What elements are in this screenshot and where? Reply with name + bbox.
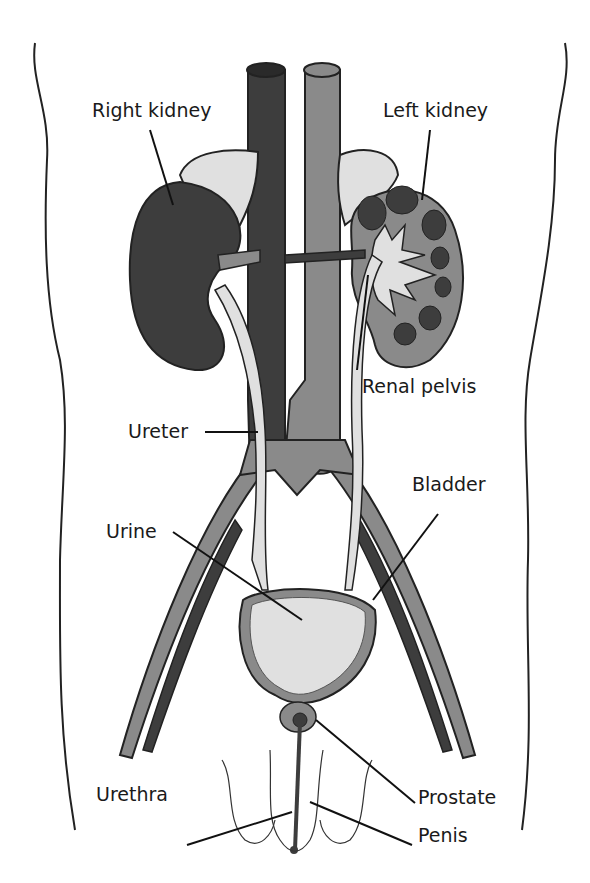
label-prostate: Prostate	[418, 786, 496, 808]
label-bladder: Bladder	[412, 473, 486, 495]
body-outline-left	[34, 43, 75, 830]
vena-cava-top	[247, 63, 285, 77]
label-renal-pelvis: Renal pelvis	[362, 375, 477, 397]
label-left-kidney: Left kidney	[383, 99, 488, 121]
label-urine: Urine	[106, 520, 157, 542]
right-kidney	[130, 182, 241, 370]
label-right-kidney: Right kidney	[92, 99, 211, 121]
urinary-system-diagram: Right kidney Left kidney Renal pelvis Ur…	[0, 0, 590, 883]
aorta	[285, 70, 341, 474]
urethra	[295, 722, 300, 850]
label-penis: Penis	[418, 824, 468, 846]
label-urethra: Urethra	[96, 783, 168, 805]
label-ureter: Ureter	[128, 420, 188, 442]
aorta-top	[304, 63, 340, 77]
iliac-vein-left	[143, 520, 242, 752]
body-outline-right	[522, 43, 567, 830]
